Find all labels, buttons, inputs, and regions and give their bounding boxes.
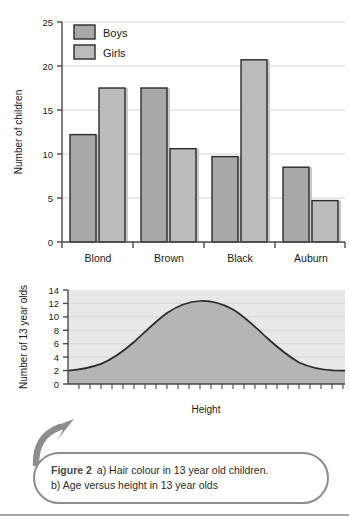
chart-a-bars (70, 60, 341, 242)
chart-a-ytick-5: 5 (48, 193, 53, 204)
chart-a-ytick-25: 25 (42, 17, 53, 28)
bar-blond-boys (70, 135, 96, 242)
chart-a-ytick-15: 15 (42, 105, 53, 116)
chart-a-category-blond: Blond (85, 252, 112, 264)
chart-b-y-axis-title: Number of 13 year olds (18, 285, 29, 389)
chart-b-ytick-14: 14 (48, 285, 59, 296)
legend-swatch-boys (74, 25, 95, 39)
chart-a-y-axis-title: Number of children (13, 90, 24, 174)
hair-colour-bar-chart: 25 20 15 10 5 0 Number of children (0, 0, 349, 272)
bar-auburn-girls (312, 201, 338, 242)
figure-number-label: Figure 2 (51, 464, 92, 476)
chart-b-ytick-10: 10 (48, 311, 59, 322)
chart-b-ytick-8: 8 (54, 325, 59, 336)
legend-label-girls: Girls (103, 47, 126, 59)
chart-a-category-black: Black (227, 252, 253, 264)
figure-caption-callout: Figure 2a) Hair colour in 13 year old ch… (33, 452, 329, 504)
chart-a-ytick-10: 10 (42, 149, 53, 160)
figure-caption-line-a: Figure 2a) Hair colour in 13 year old ch… (51, 463, 311, 478)
bar-blond-girls (99, 88, 125, 242)
bar-black-girls (241, 60, 267, 242)
chart-a-x-axis (62, 242, 345, 248)
chart-a-legend: Boys Girls (74, 25, 128, 59)
chart-b-ytick-0: 0 (54, 379, 59, 390)
chart-b-y-axis (63, 290, 68, 384)
chart-b-ytick-4: 4 (54, 352, 59, 363)
chart-b-x-axis-title: Height (192, 404, 221, 415)
bar-brown-boys (141, 88, 167, 242)
figure-caption-line-b: b) Age versus height in 13 year olds (51, 478, 311, 493)
chart-a-category-brown: Brown (154, 252, 184, 264)
bar-brown-girls (170, 149, 196, 242)
chart-b-ytick-12: 12 (48, 298, 59, 309)
chart-a-y-axis (57, 22, 62, 242)
legend-swatch-girls (74, 45, 95, 59)
bar-auburn-boys (283, 167, 309, 242)
chart-b-ytick-6: 6 (54, 338, 59, 349)
bar-black-boys (212, 157, 238, 242)
chart-b-x-axis (68, 384, 345, 389)
chart-b-ytick-2: 2 (54, 365, 59, 376)
page-bottom-divider (0, 514, 349, 516)
figure-caption-a-text: a) Hair colour in 13 year old children. (97, 464, 269, 476)
legend-label-boys: Boys (103, 27, 128, 39)
height-distribution-area-chart: 14 12 10 8 6 4 2 0 Number of 13 year old… (0, 272, 349, 422)
chart-a-ytick-20: 20 (42, 61, 53, 72)
chart-a-category-auburn: Auburn (294, 252, 328, 264)
chart-a-ytick-0: 0 (48, 237, 53, 248)
